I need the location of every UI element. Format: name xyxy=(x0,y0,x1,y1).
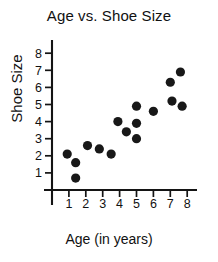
x-axis-label: Age (in years) xyxy=(0,231,218,247)
data-point-14 xyxy=(176,67,185,76)
data-point-0 xyxy=(63,149,72,158)
y-tick-label-7: 7 xyxy=(35,64,42,78)
data-point-6 xyxy=(113,117,122,126)
tick-labels-group: 1234567812345678 xyxy=(35,47,191,211)
x-tick-label-2: 2 xyxy=(82,197,89,211)
data-point-11 xyxy=(149,107,158,116)
data-point-15 xyxy=(178,102,187,111)
data-point-9 xyxy=(132,134,141,143)
x-tick-label-7: 7 xyxy=(167,197,174,211)
data-point-12 xyxy=(166,78,175,87)
y-tick-label-6: 6 xyxy=(35,81,42,95)
data-point-5 xyxy=(107,149,116,158)
y-tick-label-4: 4 xyxy=(35,115,42,129)
data-point-10 xyxy=(132,102,141,111)
x-tick-label-3: 3 xyxy=(99,197,106,211)
x-tick-label-5: 5 xyxy=(133,197,140,211)
y-tick-label-1: 1 xyxy=(35,166,42,180)
data-point-2 xyxy=(71,173,80,182)
data-point-7 xyxy=(122,127,131,136)
data-point-4 xyxy=(95,144,104,153)
data-point-8 xyxy=(132,119,141,128)
data-point-13 xyxy=(167,96,176,105)
x-tick-label-8: 8 xyxy=(184,197,191,211)
y-tick-label-2: 2 xyxy=(35,149,42,163)
scatter-chart: Age vs. Shoe Size Shoe Size 123456781234… xyxy=(0,0,218,262)
data-point-1 xyxy=(71,158,80,167)
x-tick-label-6: 6 xyxy=(150,197,157,211)
y-tick-label-3: 3 xyxy=(35,132,42,146)
data-point-3 xyxy=(83,141,92,150)
x-tick-label-1: 1 xyxy=(65,197,72,211)
y-tick-label-8: 8 xyxy=(35,47,42,61)
plot-area: 1234567812345678 xyxy=(0,0,218,262)
data-points-group xyxy=(63,67,187,182)
y-tick-label-5: 5 xyxy=(35,98,42,112)
x-tick-label-4: 4 xyxy=(116,197,123,211)
